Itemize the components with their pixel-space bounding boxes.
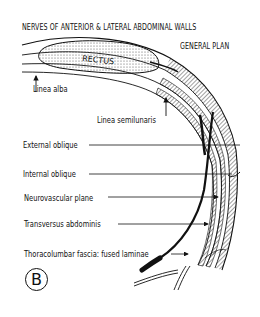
label-linea-alba: Linea alba (33, 84, 68, 94)
label-internal-oblique: Internal oblique (23, 169, 76, 179)
label-transversus-abdominis: Transversus abdominis (24, 219, 101, 229)
label-thoracolumbar-fascia: Thoracolumbar fascia: fused laminae (24, 249, 149, 259)
label-linea-semilunaris: Linea semilunaris (97, 115, 156, 125)
label-neurovascular-plane: Neurovascular plane (24, 193, 93, 203)
panel-letter-badge: B (25, 268, 48, 291)
label-external-oblique: External oblique (23, 140, 78, 150)
panel-letter: B (31, 272, 42, 288)
